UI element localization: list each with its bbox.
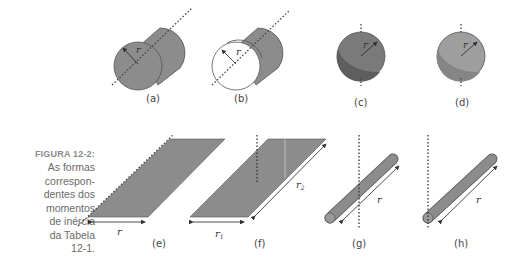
- figure-label: (b): [234, 93, 248, 104]
- svg-text:r2: r2: [296, 179, 305, 191]
- figure-d-hollow-sphere: r (d): [437, 24, 485, 108]
- figure-g-rod-center: r (g): [325, 135, 399, 249]
- figure-label: (d): [455, 97, 469, 108]
- figure-label: (c): [354, 97, 367, 108]
- figure-e-plate-edge: r (e): [78, 134, 225, 249]
- figure-label: (f): [254, 238, 265, 249]
- figure-b-hollow-cylinder: r (b): [212, 10, 290, 104]
- figure-label: (e): [152, 238, 166, 249]
- radius-label: r: [117, 226, 123, 237]
- diagram-canvas: r (a) r (b) r (c) r (d) r (e): [0, 0, 510, 265]
- figure-h-rod-end: r (h): [423, 135, 497, 249]
- figure-label: (g): [352, 238, 366, 249]
- figure-label: (a): [146, 93, 160, 104]
- figure-a-solid-cylinder: r (a): [112, 8, 192, 104]
- radius-label: r: [476, 194, 482, 205]
- figure-label: (h): [454, 238, 468, 249]
- svg-text:r1: r1: [215, 228, 224, 240]
- radius-label: r: [377, 194, 383, 205]
- figure-c-solid-sphere: r (c): [337, 24, 385, 108]
